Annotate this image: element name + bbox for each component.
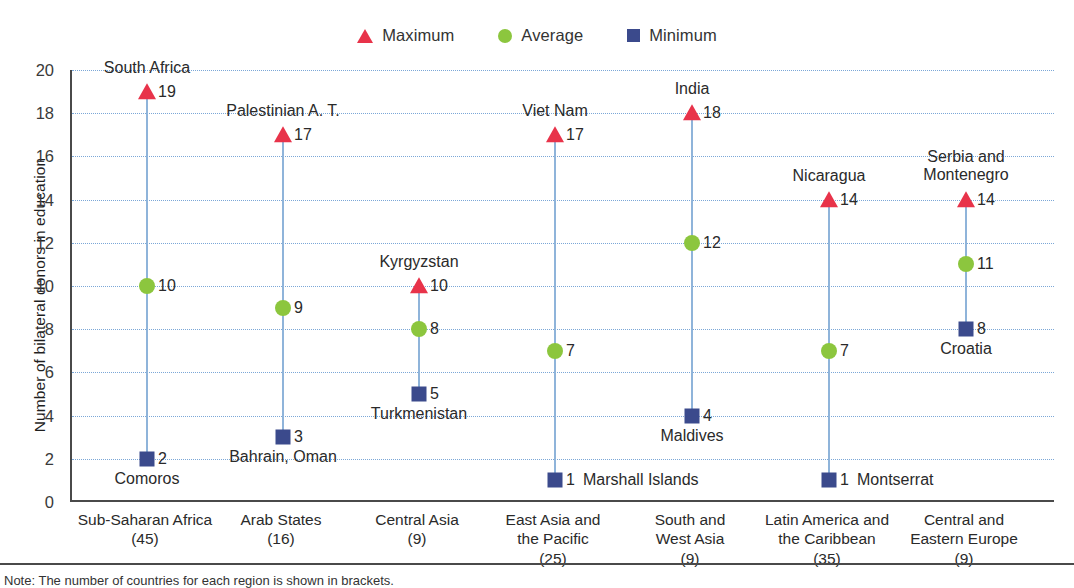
maximum-country-label: Palestinian A. T. bbox=[226, 102, 340, 120]
x-axis-labels: Sub-Saharan Africa(45)Arab States(16)Cen… bbox=[0, 510, 1074, 582]
x-axis-category-line2: Eastern Europe bbox=[910, 530, 1018, 547]
maximum-country-label: India bbox=[675, 80, 710, 98]
x-axis-category-line1: East Asia and bbox=[506, 511, 601, 528]
minimum-value-label: 4 bbox=[703, 407, 712, 425]
circle-icon bbox=[498, 29, 512, 43]
maximum-country-label: Serbia andMontenegro bbox=[923, 148, 1008, 184]
range-stem bbox=[418, 286, 420, 394]
maximum-marker[interactable] bbox=[820, 191, 838, 207]
x-axis-category-line1: Central Asia bbox=[375, 511, 459, 528]
x-axis-category-label: Central andEastern Europe(9) bbox=[869, 510, 1059, 568]
gridline bbox=[72, 70, 1054, 71]
minimum-marker[interactable] bbox=[959, 322, 974, 337]
average-value-label: 7 bbox=[566, 342, 575, 360]
minimum-marker[interactable] bbox=[685, 408, 700, 423]
maximum-marker[interactable] bbox=[274, 126, 292, 142]
gridline bbox=[72, 416, 1054, 417]
maximum-value-label: 17 bbox=[566, 126, 584, 144]
minimum-value-label: 3 bbox=[294, 428, 303, 446]
gridline bbox=[72, 156, 1054, 157]
y-axis-tick-label: 8 bbox=[45, 320, 54, 339]
bottom-divider bbox=[0, 563, 1074, 565]
average-value-label: 12 bbox=[703, 234, 721, 252]
legend-item-average: Average bbox=[498, 26, 583, 45]
y-axis-tick-label: 4 bbox=[45, 406, 54, 425]
minimum-country-label: Montserrat bbox=[857, 471, 933, 489]
legend-item-minimum: Minimum bbox=[627, 26, 717, 45]
minimum-value-label: 1 bbox=[840, 471, 849, 489]
y-axis-tick-label: 6 bbox=[45, 363, 54, 382]
average-value-label: 7 bbox=[840, 342, 849, 360]
chart-page: Maximum Average Minimum Number of bilate… bbox=[0, 0, 1074, 588]
maximum-value-label: 10 bbox=[430, 277, 448, 295]
average-marker[interactable] bbox=[547, 343, 563, 359]
y-axis-tick-label: 0 bbox=[45, 493, 54, 512]
maximum-value-label: 14 bbox=[977, 191, 995, 209]
y-axis-tick-label: 14 bbox=[36, 190, 54, 209]
range-stem bbox=[146, 92, 148, 459]
maximum-marker[interactable] bbox=[410, 277, 428, 293]
average-value-label: 8 bbox=[430, 320, 439, 338]
minimum-marker[interactable] bbox=[276, 430, 291, 445]
average-marker[interactable] bbox=[958, 256, 974, 272]
x-axis-category-count: (9) bbox=[408, 530, 427, 547]
legend-label-maximum: Maximum bbox=[382, 26, 454, 45]
triangle-icon bbox=[357, 29, 373, 43]
y-axis-tick-label: 16 bbox=[36, 147, 54, 166]
x-axis-category-line2: the Pacific bbox=[517, 530, 589, 547]
minimum-value-label: 2 bbox=[158, 450, 167, 468]
range-stem bbox=[282, 135, 284, 437]
x-axis-category-line2: West Asia bbox=[656, 530, 725, 547]
y-axis-tick-label: 2 bbox=[45, 449, 54, 468]
average-marker[interactable] bbox=[411, 321, 427, 337]
average-marker[interactable] bbox=[275, 300, 291, 316]
average-marker[interactable] bbox=[139, 278, 155, 294]
maximum-marker[interactable] bbox=[546, 126, 564, 142]
gridline bbox=[72, 372, 1054, 373]
minimum-marker[interactable] bbox=[140, 451, 155, 466]
x-axis-category-line2: the Caribbean bbox=[778, 530, 875, 547]
average-marker[interactable] bbox=[684, 235, 700, 251]
minimum-country-label: Turkmenistan bbox=[371, 405, 467, 423]
minimum-country-label: Croatia bbox=[940, 340, 992, 358]
gridline bbox=[72, 286, 1054, 287]
x-axis-category-count: (45) bbox=[131, 530, 159, 547]
maximum-marker[interactable] bbox=[957, 191, 975, 207]
average-value-label: 9 bbox=[294, 299, 303, 317]
maximum-country-label: South Africa bbox=[104, 59, 190, 77]
chart-legend: Maximum Average Minimum bbox=[0, 26, 1074, 45]
gridline bbox=[72, 459, 1054, 460]
x-axis-category-line1: Central and bbox=[924, 511, 1004, 528]
minimum-value-label: 1 bbox=[566, 471, 575, 489]
range-stem bbox=[554, 135, 556, 481]
maximum-value-label: 19 bbox=[158, 83, 176, 101]
minimum-country-label: Bahrain, Oman bbox=[229, 448, 337, 466]
maximum-country-label: Viet Nam bbox=[522, 102, 588, 120]
maximum-marker[interactable] bbox=[683, 104, 701, 120]
minimum-marker[interactable] bbox=[822, 473, 837, 488]
plot-area: 19102South AfricaComoros1793Palestinian … bbox=[70, 70, 1054, 502]
minimum-marker[interactable] bbox=[548, 473, 563, 488]
maximum-country-label: Nicaragua bbox=[793, 167, 866, 185]
y-axis-tick-label: 12 bbox=[36, 233, 54, 252]
y-axis-ticks: 02468101214161820 bbox=[0, 70, 62, 502]
x-axis-category-count: (16) bbox=[267, 530, 295, 547]
x-axis-category-line1: South and bbox=[655, 511, 726, 528]
chart-note: Note: The number of countries for each r… bbox=[4, 573, 394, 588]
legend-label-minimum: Minimum bbox=[649, 26, 717, 45]
minimum-country-label: Maldives bbox=[660, 427, 723, 445]
minimum-country-label: Comoros bbox=[115, 470, 180, 488]
legend-label-average: Average bbox=[521, 26, 583, 45]
gridline bbox=[72, 329, 1054, 330]
maximum-country-label: Kyrgyzstan bbox=[379, 253, 458, 271]
average-value-label: 11 bbox=[977, 255, 994, 273]
maximum-marker[interactable] bbox=[138, 83, 156, 99]
maximum-value-label: 14 bbox=[840, 191, 858, 209]
average-marker[interactable] bbox=[821, 343, 837, 359]
gridline bbox=[72, 200, 1054, 201]
average-value-label: 10 bbox=[158, 277, 176, 295]
range-stem bbox=[828, 200, 830, 481]
range-stem bbox=[691, 113, 693, 415]
minimum-marker[interactable] bbox=[412, 387, 427, 402]
maximum-value-label: 18 bbox=[703, 104, 721, 122]
